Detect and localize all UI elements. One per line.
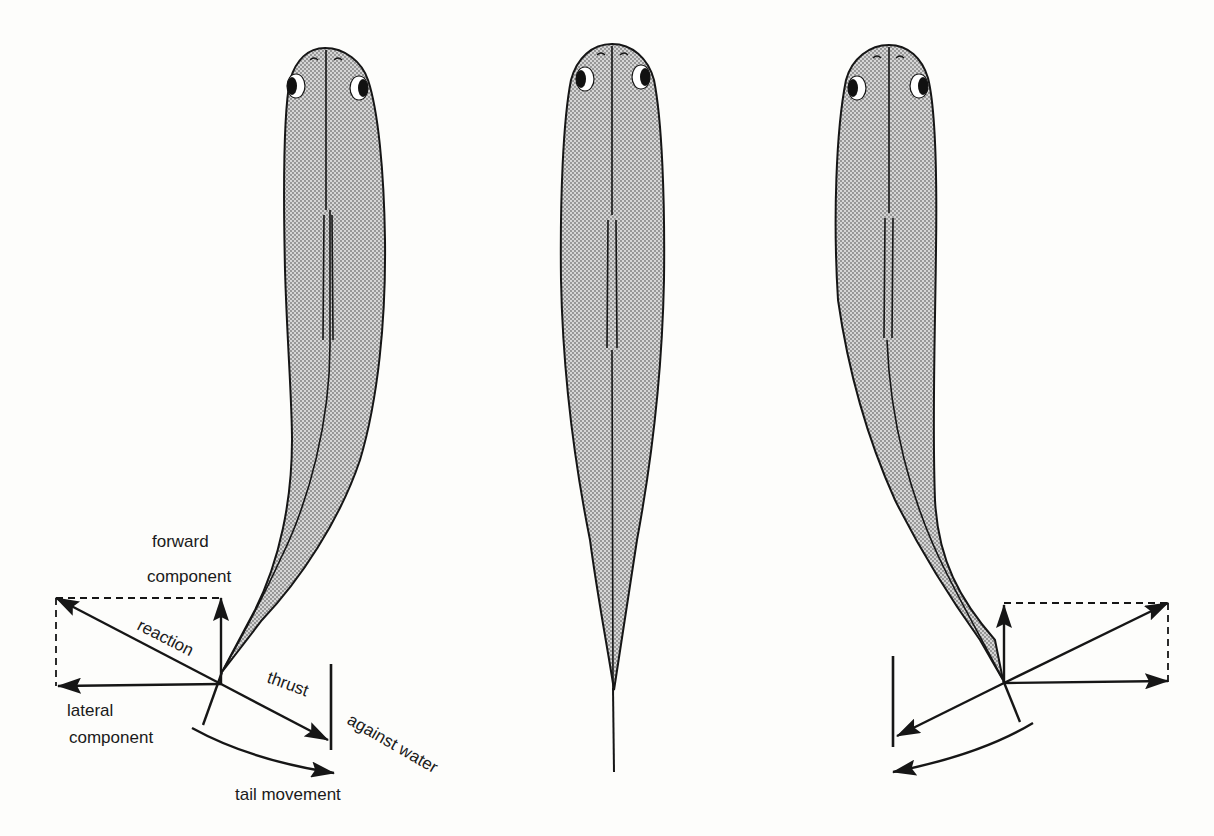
right-thrust-arrow (897, 683, 1004, 736)
left-vector-diagram: forward component reaction thrust agains… (56, 532, 441, 804)
label-tail-movement: tail movement (235, 785, 341, 804)
right-lateral-component-arrow (1004, 681, 1168, 683)
label-lateral-component: component (69, 728, 153, 747)
right-fish-body (836, 45, 1003, 680)
thrust-arrow (221, 684, 328, 740)
center-fish-tail-line (613, 688, 614, 772)
left-fish-body (222, 48, 385, 672)
left-fish (222, 48, 385, 672)
center-fish-eye-right (632, 65, 650, 89)
center-fish-eye-left (576, 67, 594, 91)
right-fish (836, 45, 1003, 680)
tail-movement-arrow (192, 728, 334, 773)
label-reaction: reaction (134, 616, 197, 660)
right-fish-eye-left (848, 76, 866, 100)
center-fish (561, 44, 664, 772)
label-against-water: against water (344, 710, 441, 777)
right-tail-movement-arrow (893, 723, 1033, 772)
right-fish-eye-right (910, 74, 928, 98)
right-tail-fin-line (1003, 680, 1020, 722)
label-forward-component: component (147, 567, 231, 586)
label-lateral: lateral (67, 701, 113, 720)
label-thrust: thrust (265, 668, 312, 700)
right-reaction-arrow (1004, 603, 1168, 683)
lateral-component-arrow (58, 684, 221, 686)
reaction-arrow (56, 598, 221, 684)
label-forward: forward (152, 532, 209, 551)
left-fish-eye-left (287, 74, 305, 98)
fish-thrust-diagram: forward component reaction thrust agains… (0, 0, 1214, 836)
left-fish-eye-right (350, 76, 368, 100)
right-vector-diagram (893, 603, 1168, 772)
